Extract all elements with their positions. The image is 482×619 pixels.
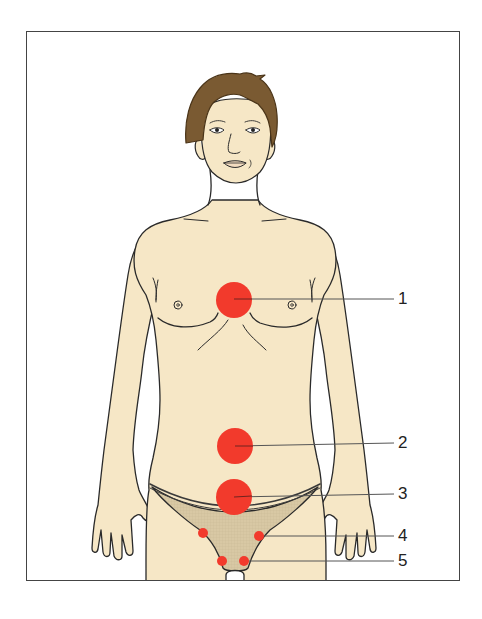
marker-5-right: [239, 556, 249, 566]
marker-label-2: 2: [398, 434, 407, 451]
marker-4-left: [198, 528, 208, 538]
marker-label-3: 3: [398, 485, 407, 502]
marker-label-4: 4: [398, 527, 407, 544]
marker-5-left: [217, 556, 227, 566]
body-illustration: [0, 0, 482, 619]
marker-label-1: 1: [398, 290, 407, 307]
face: [201, 99, 270, 183]
marker-4-right: [254, 531, 264, 541]
marker-1: [216, 282, 252, 318]
marker-label-5: 5: [398, 552, 407, 569]
body-diagram: 1 2 3 4 5: [0, 0, 482, 619]
